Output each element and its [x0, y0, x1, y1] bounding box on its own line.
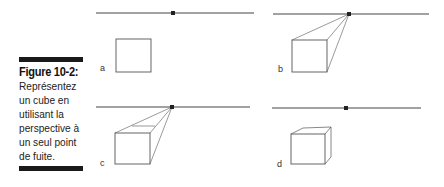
- vanishing-point-a: [171, 11, 175, 15]
- panel-d-drawing: [272, 108, 421, 164]
- panel-label-b: b: [278, 64, 283, 74]
- panel-c-drawing: [96, 107, 250, 164]
- vanishing-point-d: [344, 106, 348, 110]
- panel-label-a: a: [100, 63, 105, 73]
- vanishing-point-b: [347, 12, 351, 16]
- panel-label-d: d: [277, 159, 282, 169]
- panel-label-c: c: [100, 158, 105, 168]
- vanishing-point-c: [170, 105, 174, 109]
- panel-a-drawing: [96, 13, 254, 72]
- perspective-drawings: [0, 0, 444, 187]
- panel-b-drawing: [273, 14, 429, 72]
